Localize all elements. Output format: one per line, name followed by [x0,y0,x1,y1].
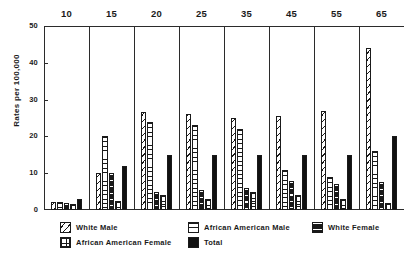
bar [51,202,56,210]
bar [321,111,326,210]
legend-swatch [60,222,71,233]
legend-entry: African American Female [60,237,172,248]
y-tick-label: 40 [12,59,38,67]
bar [244,188,249,210]
bar [57,202,62,210]
chart-legend: White MaleAfrican American MaleWhite Fem… [60,222,400,254]
legend-entry: Total [188,237,223,248]
bar [77,199,82,210]
x-tick-label: 45 [272,8,312,19]
y-tick-label: 30 [12,96,38,104]
plot-area [44,26,404,210]
y-tick-label: 10 [12,169,38,177]
bar [340,199,345,210]
x-tick-label: 65 [362,8,402,19]
legend-label: White Female [328,223,379,232]
bar [167,155,172,210]
x-tick-label: 20 [137,8,177,19]
bar [372,151,377,210]
bar [327,177,332,210]
bar [109,173,114,210]
legend-label: White Male [76,223,118,232]
bar [96,173,101,210]
bar [64,203,69,210]
legend-swatch [60,237,71,248]
legend-swatch [312,222,323,233]
bar [122,166,127,210]
bar [205,199,210,210]
y-tick-label: 50 [12,22,38,30]
bar [250,192,255,210]
bar [141,112,146,210]
bar [347,155,352,210]
bar [192,125,197,210]
bar [147,122,152,210]
x-tick-label: 35 [227,8,267,19]
bar [334,184,339,210]
x-tick-label: 55 [317,8,357,19]
bar [154,192,159,210]
legend-swatch [188,222,199,233]
bar [302,155,307,210]
bar [289,181,294,210]
bar-chart-figure: Rates per 100,000 01020304050 1015202535… [0,0,412,260]
bar [199,190,204,210]
legend-swatch [188,237,199,248]
bar [392,136,397,210]
bar [295,195,300,210]
bar [115,201,120,210]
bar [366,48,371,210]
bar [160,195,165,210]
legend-label: African American Female [76,238,172,247]
bar [231,118,236,210]
bar [379,182,384,210]
x-tick-label: 15 [92,8,132,19]
bar [212,155,217,210]
legend-label: African American Male [204,223,290,232]
bar [102,136,107,210]
bar [237,129,242,210]
bar [257,155,262,210]
y-tick-label: 0 [12,206,38,214]
bar [186,114,191,210]
x-tick-label: 10 [47,8,87,19]
legend-entry: White Female [312,222,379,233]
y-tick-label: 20 [12,132,38,140]
legend-label: Total [204,238,223,247]
bar [70,204,75,210]
x-tick-label: 25 [182,8,222,19]
legend-entry: African American Male [188,222,290,233]
bar [282,170,287,210]
bar [276,116,281,210]
legend-entry: White Male [60,222,118,233]
bar [385,203,390,210]
